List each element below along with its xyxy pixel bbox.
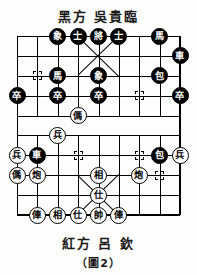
piece-glyph: 士 [74,31,83,40]
piece-glyph: 車 [175,51,184,60]
piece-glyph: 仕 [74,210,83,219]
piece-glyph: 相 [94,171,103,180]
piece-glyph: 炮 [135,171,144,180]
piece-red-p19[interactable]: 兵 [172,147,189,164]
piece-black-p03[interactable]: 將 [90,28,107,45]
piece-glyph: 馬 [155,31,164,40]
piece-glyph: 卒 [53,91,62,100]
piece-red-p24[interactable]: 仕 [90,187,107,204]
piece-glyph: 傌 [12,171,21,180]
piece-glyph: 俥 [33,210,42,219]
piece-glyph: 仕 [94,191,103,200]
piece-glyph: 兵 [175,151,184,160]
piece-glyph: 卒 [94,91,103,100]
piece-black-p04[interactable]: 士 [110,28,127,45]
piece-glyph: 俥 [114,210,123,219]
piece-glyph: 包 [155,151,164,160]
piece-glyph: 車 [33,151,42,160]
bottom-player-label: 紅方 呂 欽 [0,233,197,252]
piece-glyph: 炮 [33,171,42,180]
piece-black-p10[interactable]: 卒 [9,87,26,104]
piece-black-p17[interactable]: 車 [29,147,46,164]
piece-glyph: 兵 [12,151,21,160]
piece-red-p29[interactable]: 俥 [110,207,127,224]
piece-glyph: 士 [114,31,123,40]
piece-black-p13[interactable]: 卒 [172,87,189,104]
piece-black-p18[interactable]: 包 [151,147,168,164]
point-marker [135,151,144,160]
piece-glyph: 兵 [53,131,62,140]
piece-glyph: 傌 [74,111,83,120]
point-marker [33,71,42,80]
figure-caption: （圖2） [0,254,197,270]
top-player-label: 黑方 吳貴臨 [0,6,197,25]
piece-red-p22[interactable]: 相 [90,167,107,184]
piece-glyph: 相 [53,210,62,219]
piece-red-p21[interactable]: 炮 [29,167,46,184]
piece-glyph: 馬 [53,71,62,80]
board-rank-line [17,116,180,117]
xiangqi-board[interactable]: 象士將士馬車馬象包卒卒卒卒傌兵兵車包兵傌炮相炮仕俥相仕帥俥 [17,36,180,215]
piece-glyph: 將 [94,31,103,40]
figure-page: 黑方 吳貴臨 象士將士馬車馬象包卒卒卒卒傌兵兵車包兵傌炮相炮仕俥相仕帥俥 紅方 … [0,0,197,275]
piece-glyph: 包 [155,71,164,80]
piece-glyph: 象 [94,71,103,80]
piece-black-p02[interactable]: 士 [70,28,87,45]
piece-red-p23[interactable]: 炮 [131,167,148,184]
piece-black-p06[interactable]: 車 [172,47,189,64]
point-marker [155,171,164,180]
piece-black-p05[interactable]: 馬 [151,28,168,45]
piece-red-p25[interactable]: 俥 [29,207,46,224]
board-rank-line [17,135,180,136]
piece-black-p01[interactable]: 象 [49,28,66,45]
board-file-line [17,36,18,215]
point-marker [135,91,144,100]
piece-glyph: 象 [53,31,62,40]
piece-red-p20[interactable]: 傌 [9,167,26,184]
piece-red-p27[interactable]: 仕 [70,207,87,224]
piece-glyph: 卒 [12,91,21,100]
piece-glyph: 帥 [94,210,103,219]
piece-red-p26[interactable]: 相 [49,207,66,224]
point-marker [74,151,83,160]
piece-glyph: 卒 [175,91,184,100]
piece-red-p16[interactable]: 兵 [9,147,26,164]
piece-red-p14[interactable]: 傌 [70,107,87,124]
piece-red-p28[interactable]: 帥 [90,207,107,224]
